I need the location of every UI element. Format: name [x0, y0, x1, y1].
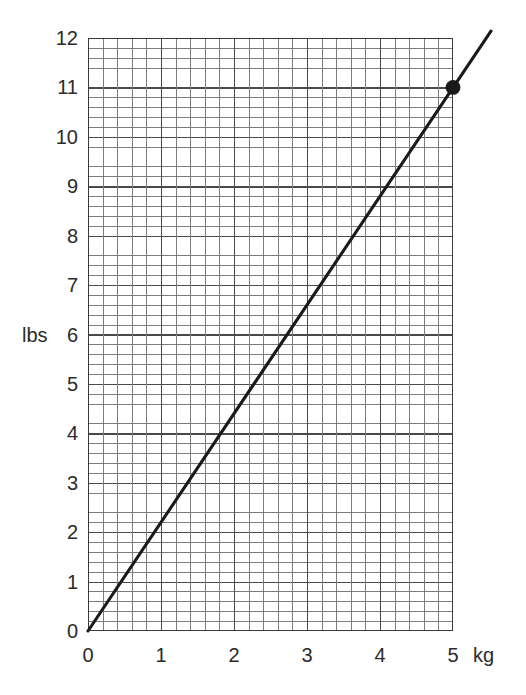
- data-point-marker: [446, 80, 461, 95]
- chart-figure: 0123456789101112 012345 lbs kg: [0, 0, 526, 695]
- data-overlay: [0, 0, 526, 695]
- data-line-kg-to-lbs: [88, 31, 491, 631]
